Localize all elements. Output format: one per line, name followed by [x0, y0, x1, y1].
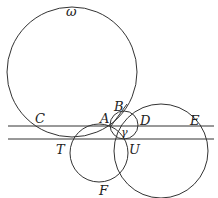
label-a: A: [100, 112, 109, 125]
label-d: D: [140, 114, 150, 127]
label-f: F: [99, 184, 108, 197]
label-gamma: γ: [121, 127, 128, 138]
diagram-svg: [0, 0, 218, 198]
label-c: C: [35, 112, 45, 125]
label-omega: ω: [66, 5, 77, 18]
label-u: U: [129, 143, 140, 156]
geometry-diagram: ω C A B D E γ T U F: [0, 0, 218, 198]
label-e: E: [190, 114, 200, 127]
label-t: T: [56, 143, 65, 156]
label-b: B: [114, 100, 124, 113]
